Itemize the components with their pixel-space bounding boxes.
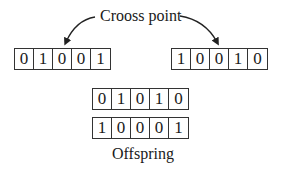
gene-cell: 1 [91, 49, 110, 69]
gene-cell: 0 [53, 49, 72, 69]
gene-cell: 1 [112, 89, 131, 109]
gene-cell: 1 [169, 118, 188, 138]
gene-cell: 0 [93, 89, 112, 109]
gene-cell: 0 [15, 49, 34, 69]
gene-cell: 0 [191, 49, 210, 69]
gene-cell: 1 [229, 49, 248, 69]
gene-cell: 1 [172, 49, 191, 69]
gene-cell: 0 [248, 49, 267, 69]
parent-chromosome-2: 1 0 0 1 0 [171, 48, 268, 70]
gene-cell: 0 [150, 118, 169, 138]
arrow-right-icon [180, 16, 217, 42]
gene-cell: 0 [169, 89, 188, 109]
gene-cell: 0 [131, 89, 150, 109]
gene-cell: 1 [150, 89, 169, 109]
gene-cell: 0 [210, 49, 229, 69]
cross-point-label: Crooss point [100, 7, 181, 25]
gene-cell: 1 [93, 118, 112, 138]
offspring-label: Offspring [112, 145, 174, 163]
gene-cell: 0 [72, 49, 91, 69]
parent-chromosome-1: 0 1 0 0 1 [14, 48, 111, 70]
gene-cell: 0 [112, 118, 131, 138]
gene-cell: 1 [34, 49, 53, 69]
gene-cell: 0 [131, 118, 150, 138]
offspring-chromosome-1: 0 1 0 1 0 [92, 88, 189, 110]
offspring-chromosome-2: 1 0 0 0 1 [92, 117, 189, 139]
arrow-left-icon [66, 17, 95, 42]
